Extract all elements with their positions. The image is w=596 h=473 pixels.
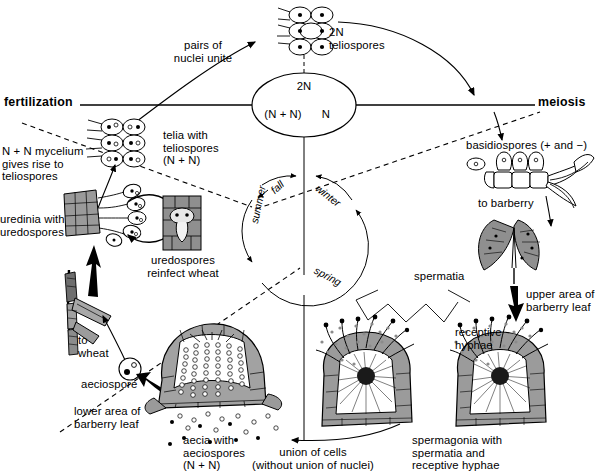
uredinia-with-uredospores-label: uredinia with uredospores bbox=[0, 213, 60, 238]
spermagonium-left-illustration bbox=[316, 315, 414, 426]
mycelium-gives-rise-label: N + N mycelium gives rise to teliospores bbox=[2, 145, 83, 183]
nuclear-phase-2n-label: 2N bbox=[290, 80, 318, 93]
to-wheat-label: to wheat bbox=[78, 334, 109, 359]
lower-area-of-barberry-leaf-label: lower area of barberry leaf bbox=[74, 405, 141, 430]
aecia-with-aeciospores-label: aecia with aeciospores (N + N) bbox=[183, 434, 245, 472]
pairs-of-nuclei-unite-label: pairs of nuclei unite bbox=[148, 39, 258, 64]
uredospores-reinfect-wheat-label: uredospores reinfect wheat bbox=[128, 254, 238, 279]
upper-area-of-barberry-leaf-label: upper area of barberry leaf bbox=[526, 288, 595, 313]
union-of-cells-label: union of cells (without union of nuclei) bbox=[238, 446, 388, 471]
fertilization-label: fertilization bbox=[4, 96, 73, 109]
aecium-cup-illustration bbox=[145, 324, 282, 446]
basidiospores-label: basidiospores (+ and −) bbox=[466, 139, 587, 152]
telia-cluster-illustration bbox=[86, 119, 145, 167]
aeciospore-label: aeciospore bbox=[81, 378, 137, 391]
nuclear-phase-n-label: N bbox=[312, 108, 340, 121]
nuclear-phase-nplusn-label: (N + N) bbox=[256, 108, 310, 121]
spermatia-label: spermatia bbox=[414, 270, 465, 283]
spermagonia-label: spermagonia with spermatia and receptive… bbox=[412, 434, 502, 472]
barberry-leaf-illustration bbox=[479, 220, 540, 284]
life-cycle-diagram: fertilization meiosis 2N (N + N) N pairs… bbox=[0, 0, 596, 473]
telia-with-teliospores-label: telia with teliospores (N + N) bbox=[163, 129, 219, 167]
to-barberry-label: to barberry bbox=[478, 197, 534, 210]
to-wheat-thick-arrow bbox=[86, 245, 101, 297]
teliospore-cluster-2n-illustration bbox=[277, 7, 333, 55]
teliospores-2n-label: 2N teliospores bbox=[329, 26, 385, 51]
meiosis-label: meiosis bbox=[538, 96, 586, 109]
wheat-stem-section-illustration bbox=[163, 196, 201, 250]
to-barberry-arrow bbox=[546, 196, 551, 226]
receptive-hyphae-label: receptive hyphae bbox=[455, 326, 502, 351]
diagram-artwork bbox=[0, 0, 596, 473]
union-of-cells-arrow bbox=[292, 424, 400, 440]
